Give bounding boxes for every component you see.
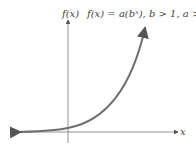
exponential-graph [0, 0, 196, 149]
y-axis-label: f(x) [62, 8, 79, 19]
x-axis-label: x [180, 126, 186, 137]
equation-label: f(x) = a(bˣ), b > 1, a > 0 [87, 8, 196, 19]
exponential-curve [20, 28, 145, 132]
